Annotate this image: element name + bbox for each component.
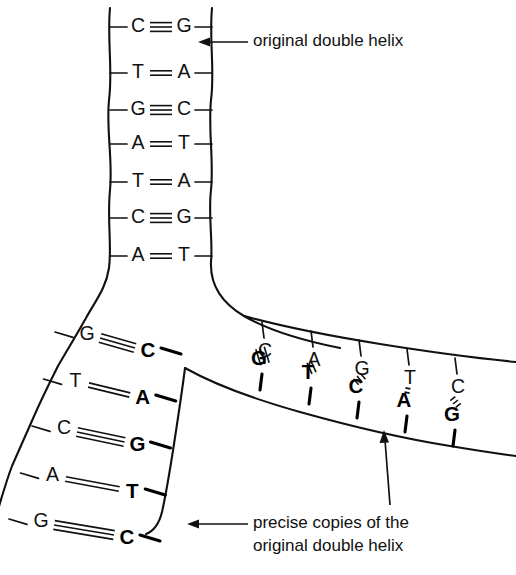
parent-pair-6: AT <box>110 243 212 265</box>
daughter-left-pair-2-old-stub <box>32 426 50 431</box>
daughter-left-pair-4-bond-line-2 <box>53 529 113 539</box>
daughter-right-pair-3-new-stub <box>405 416 407 432</box>
daughter-left-pair-2-bond-line-1 <box>77 432 125 442</box>
parent-left-backbone <box>58 8 111 366</box>
daughter-right-pair-3-old-stub <box>407 349 409 365</box>
daughter-left-group <box>0 366 185 534</box>
bottom-annotation-label-line2: original double helix <box>253 536 404 555</box>
parent-pair-4-left-base: T <box>132 169 144 191</box>
daughter-left-pair-1-bond-line-1 <box>88 387 129 397</box>
daughter-right-pair-2-old-stub <box>359 340 361 356</box>
parent-pair-6-right-base: T <box>178 243 190 265</box>
daughter-left-pair-1-bond-line-0 <box>89 383 130 393</box>
dna-replication-diagram: CGTAGCATTACGAT GCTACGATGC CGATGCTACG ori… <box>0 0 516 575</box>
parent-pair-2-left-base: G <box>130 97 145 119</box>
parent-base-pairs: CGTAGCATTACGAT <box>110 14 212 265</box>
daughter-left-pair-0-bond-line-1 <box>100 338 135 348</box>
daughter-left-pair-2-bond-line-0 <box>78 428 126 438</box>
annotation-precise-copies: precise copies of the original double he… <box>187 513 409 555</box>
daughter-left-pair-3-bond-line-1 <box>65 481 119 491</box>
daughter-left-pair-4-bond-line-1 <box>54 525 114 535</box>
parent-pair-6-left-base: A <box>131 243 144 265</box>
parent-pair-5: CG <box>110 205 212 227</box>
daughter-left-pair-2-bond-line-2 <box>76 436 124 446</box>
daughter-left-pair-3-bond-line-0 <box>66 477 120 487</box>
daughter-left-inner-backbone <box>146 368 185 534</box>
bottom-annotation-label-line1: precise copies of the <box>253 513 409 532</box>
daughter-left-pair-2-new-stub <box>151 442 171 448</box>
daughter-left-pair-3-old-stub <box>21 473 39 478</box>
parent-pair-1-left-base: T <box>132 60 144 82</box>
daughter-right-pair-0: CG <box>251 322 272 390</box>
daughter-left-pair-2-new-base: G <box>130 432 146 455</box>
daughter-left-pair-4-old-stub <box>9 519 27 524</box>
parent-pair-3-right-base: T <box>178 131 190 153</box>
daughter-left-pair-0-new-base: C <box>141 338 156 361</box>
daughter-left-pair-3-old-base: A <box>46 463 59 485</box>
parent-pair-5-left-base: C <box>131 205 145 227</box>
daughter-right-pair-4-new-base: G <box>444 402 460 425</box>
daughter-right-pair-4-old-stub <box>455 358 457 374</box>
parent-pair-4: TA <box>110 169 212 191</box>
parent-pair-2: GC <box>110 97 212 119</box>
daughter-left-pair-1-new-base: A <box>135 385 150 408</box>
daughter-left-outer-backbone <box>0 366 58 510</box>
daughter-left-pair-0: GC <box>55 322 181 361</box>
daughter-left-pair-4-new-stub <box>140 535 160 541</box>
daughter-left-pair-4: GC <box>9 509 160 548</box>
daughter-right-pair-1-old-stub <box>311 331 313 347</box>
daughter-right-pair-1-new-stub <box>309 388 311 404</box>
daughter-right-pair-2: GC <box>349 340 370 418</box>
daughter-right-pair-2-new-base: C <box>349 374 364 397</box>
daughter-left-pair-0-bond-line-0 <box>101 334 136 344</box>
daughter-left-pair-0-new-stub <box>161 348 181 354</box>
daughter-left-pair-0-bond-line-2 <box>99 342 134 352</box>
daughter-left-pair-4-new-base: C <box>120 525 135 548</box>
daughter-left-pair-3-new-base: T <box>126 479 139 502</box>
parent-pair-3: AT <box>110 131 212 153</box>
right-daughter-pointer-line <box>385 440 390 505</box>
parent-helix-group <box>58 8 340 366</box>
top-annotation-label: original double helix <box>253 31 404 50</box>
parent-pair-0: CG <box>110 14 212 36</box>
daughter-left-pair-4-old-base: G <box>33 509 48 531</box>
daughter-right-pair-4-old-base: C <box>451 375 465 397</box>
daughter-left-pair-1-old-stub <box>44 379 62 384</box>
daughter-left-pair-3-new-stub <box>145 489 165 495</box>
daughter-right-pair-3-new-base: A <box>397 388 412 411</box>
daughter-right-pair-4-new-stub <box>453 430 455 446</box>
top-annotation-arrow-head <box>198 38 210 47</box>
parent-pair-0-right-base: G <box>176 14 191 36</box>
daughter-left-pair-1-new-stub <box>156 395 176 401</box>
parent-right-backbone <box>210 8 340 348</box>
daughter-right-pair-0-old-stub <box>262 322 264 338</box>
parent-pair-1: TA <box>110 60 212 82</box>
daughter-right-pair-0-new-base: G <box>251 346 267 369</box>
daughter-left-pair-2-old-base: C <box>57 416 71 438</box>
parent-pair-2-right-base: C <box>177 97 191 119</box>
annotation-pointer-to-right-daughter <box>380 430 391 505</box>
daughter-left-pair-0-old-base: G <box>79 322 94 344</box>
daughter-left-pair-3: AT <box>21 463 166 502</box>
daughter-left-pair-1: TA <box>44 369 176 408</box>
annotation-original-double-helix: original double helix <box>198 31 404 50</box>
daughter-right-pair-4: CG <box>444 358 465 446</box>
parent-pair-3-left-base: A <box>131 131 144 153</box>
parent-pair-0-left-base: C <box>131 14 145 36</box>
daughter-right-pair-3-old-base: T <box>404 366 416 388</box>
parent-pair-1-right-base: A <box>177 60 190 82</box>
daughter-left-pair-2: CG <box>32 416 171 455</box>
bottom-annotation-arrow-head <box>187 520 199 529</box>
daughter-left-pair-1-old-base: T <box>70 369 82 391</box>
parent-pair-5-right-base: G <box>176 205 191 227</box>
parent-pair-4-right-base: A <box>177 169 190 191</box>
daughter-right-pair-4-bond-line-2 <box>450 397 455 401</box>
daughter-right-pair-2-new-stub <box>357 402 359 418</box>
daughter-left-pair-0-old-stub <box>55 332 73 337</box>
daughter-right-top-backbone <box>244 316 516 362</box>
daughter-left-base-pairs: GCTACGATGC <box>9 322 181 548</box>
diagram-canvas: CGTAGCATTACGAT GCTACGATGC CGATGCTACG ori… <box>0 0 516 575</box>
daughter-right-pair-1-new-base: T <box>302 360 315 383</box>
daughter-left-pair-4-bond-line-0 <box>55 521 115 531</box>
daughter-right-pair-0-new-stub <box>260 374 262 390</box>
